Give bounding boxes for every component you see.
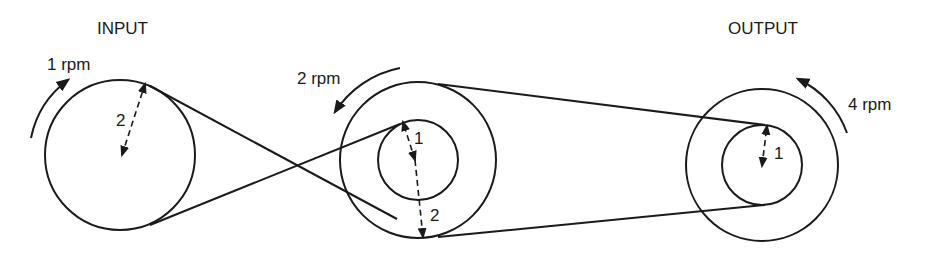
input-speed-label: 1 rpm bbox=[47, 55, 90, 74]
output-label: OUTPUT bbox=[728, 19, 798, 38]
open-belt bbox=[438, 84, 765, 237]
output-compound-pulley: 1 4 rpm bbox=[686, 79, 891, 241]
output-rotation-arrow-icon bbox=[798, 79, 847, 133]
output-speed-label: 4 rpm bbox=[848, 95, 891, 114]
middle-outer-radius-label: 2 bbox=[430, 206, 439, 225]
input-pulley: 2 1 rpm bbox=[31, 55, 195, 230]
output-radius-label: 1 bbox=[774, 144, 783, 163]
middle-rotation-arrow-icon bbox=[335, 68, 400, 112]
output-radius-arrow bbox=[762, 126, 767, 166]
belt-drive-diagram: INPUT OUTPUT 2 1 rpm 1 2 2 rpm 1 bbox=[0, 0, 926, 258]
input-radius-label: 2 bbox=[116, 111, 125, 130]
middle-inner-radius-label: 1 bbox=[414, 129, 423, 148]
input-label: INPUT bbox=[97, 19, 148, 38]
middle-outer-wheel bbox=[340, 82, 496, 238]
middle-outer-radius-arrow bbox=[415, 160, 423, 237]
middle-speed-label: 2 rpm bbox=[297, 69, 340, 88]
crossed-belt bbox=[150, 86, 400, 225]
